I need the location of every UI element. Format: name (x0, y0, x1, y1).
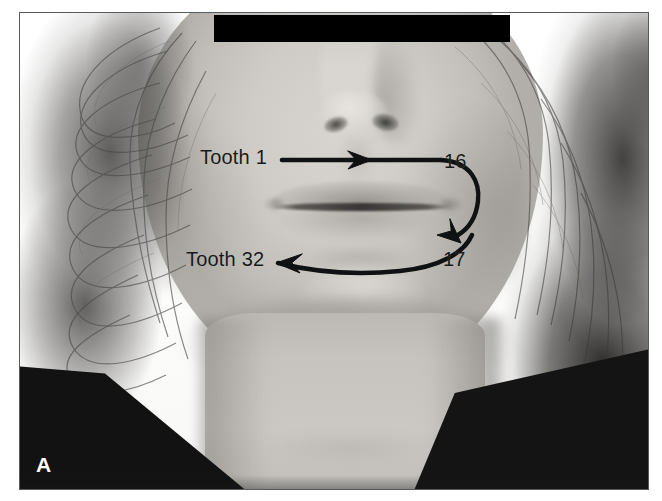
lip-commissure-line (270, 203, 454, 211)
annotation-label-tooth-1: Tooth 1 (200, 147, 267, 167)
eye-redaction-bar (214, 15, 510, 42)
hair-left-wisp-strands (20, 23, 220, 393)
clinical-photograph: Tooth 1 16 17 Tooth 32 A (20, 13, 648, 489)
figure-root: Tooth 1 16 17 Tooth 32 A (0, 0, 662, 501)
clavicle-highlight (270, 433, 430, 463)
annotation-label-16: 16 (444, 151, 467, 171)
annotation-label-17: 17 (443, 249, 466, 269)
photo-frame-border: Tooth 1 16 17 Tooth 32 A (19, 12, 649, 490)
annotation-label-tooth-32: Tooth 32 (186, 249, 264, 269)
left-mouth-corner (264, 197, 284, 211)
clothing-bottom-edge (20, 475, 648, 489)
panel-letter-label: A (36, 454, 52, 475)
philtrum (340, 139, 374, 183)
